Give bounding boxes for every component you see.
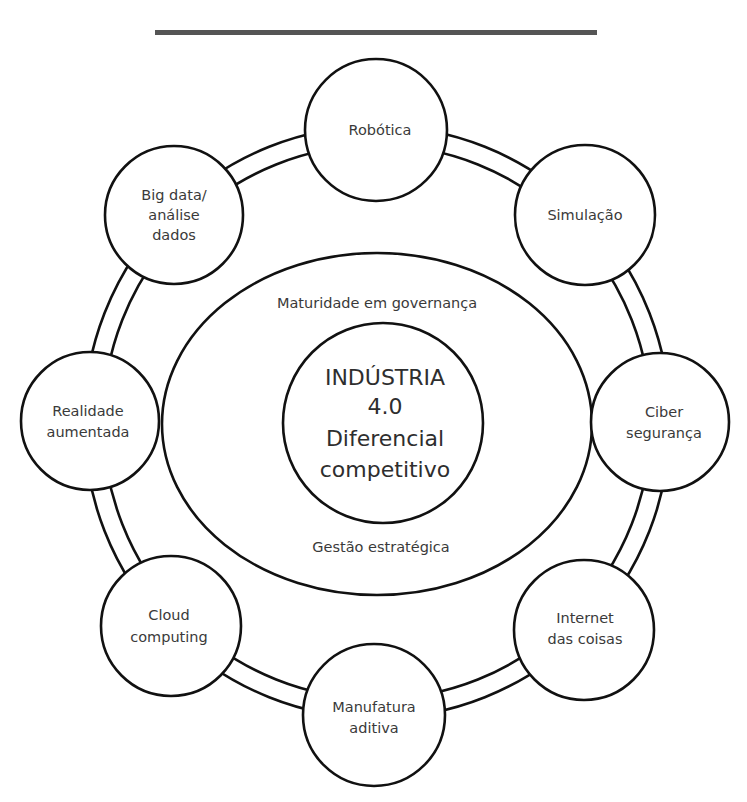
node-realidade-aumentada: Realidade aumentada — [21, 352, 159, 490]
node-label: das coisas — [547, 631, 622, 647]
node-label: segurança — [626, 425, 702, 441]
core-label-line-3: Diferencial — [326, 426, 444, 451]
ellipse-top-label: Maturidade em governança — [277, 295, 477, 311]
header-bar — [155, 30, 597, 35]
node-label: Cloud — [148, 607, 189, 623]
core-label-line-2: 4.0 — [368, 394, 403, 419]
node-label: Simulação — [547, 207, 622, 223]
industry-4-diagram: Maturidade em governança Gestão estratég… — [0, 0, 747, 802]
node-label: Ciber — [645, 404, 683, 420]
node-label: Robótica — [349, 122, 412, 138]
core-node: INDÚSTRIA 4.0 Diferencial competitivo — [283, 323, 483, 523]
node-label: Realidade — [52, 403, 124, 419]
node-cloud-computing: Cloud computing — [101, 556, 241, 696]
node-big-data: Big data/ análise dados — [105, 146, 243, 284]
node-label: dados — [152, 227, 196, 243]
core-label-line-4: competitivo — [320, 457, 450, 482]
node-label: aditiva — [349, 720, 398, 736]
node-label: aumentada — [47, 424, 130, 440]
node-label: Big data/ — [141, 187, 206, 203]
node-label: análise — [148, 207, 200, 223]
ellipse-bottom-label: Gestão estratégica — [312, 539, 449, 555]
core-label-line-1: INDÚSTRIA — [325, 365, 445, 390]
node-manufatura-aditiva: Manufatura aditiva — [303, 644, 445, 786]
node-label: Internet — [556, 610, 614, 626]
node-label: computing — [130, 629, 207, 645]
node-ciber-seguranca: Ciber segurança — [591, 353, 729, 491]
node-robotica: Robótica — [305, 59, 447, 201]
node-internet-das-coisas: Internet das coisas — [514, 560, 654, 700]
node-simulacao: Simulação — [515, 145, 655, 285]
node-label: Manufatura — [332, 699, 416, 715]
